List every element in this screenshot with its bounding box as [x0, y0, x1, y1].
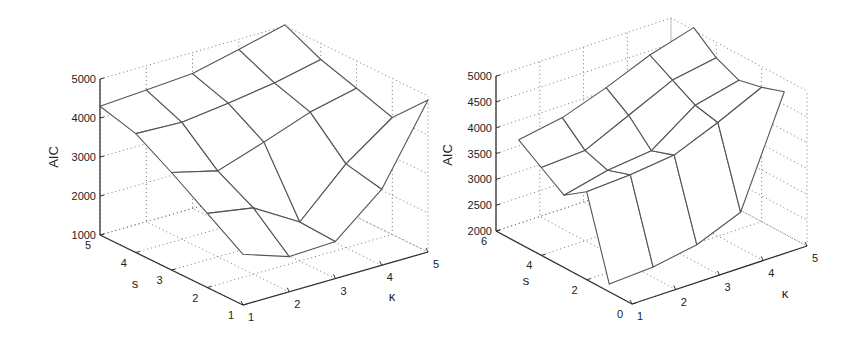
k-tick-label: 4 [387, 271, 393, 283]
z-tick-label: 5000 [468, 70, 492, 82]
z-axis-title: AIC [440, 144, 455, 166]
z-tick-label: 3000 [468, 173, 492, 185]
z-tick-label: 2500 [468, 199, 492, 211]
left-surface-plot: 100020003000400050001234512345AICsκ [0, 0, 440, 341]
z-tick-label: 3500 [468, 148, 492, 160]
k-tick-label: 4 [768, 267, 774, 279]
s-tick-label: 1 [228, 309, 234, 321]
z-tick-label: 3000 [72, 151, 96, 163]
z-tick-label: 4000 [72, 112, 96, 124]
z-tick-label: 1000 [72, 229, 96, 241]
s-tick-label: 2 [192, 292, 198, 304]
z-tick-label: 4500 [468, 96, 492, 108]
k-tick-label: 1 [637, 310, 643, 322]
k-tick-label: 3 [724, 281, 730, 293]
k-axis-title: κ [782, 286, 789, 301]
k-tick-label: 3 [340, 285, 346, 297]
s-tick-label: 3 [156, 274, 162, 286]
s-tick-label: 4 [526, 259, 532, 271]
k-axis-title: κ [389, 289, 396, 304]
right-plot-canvas: 2000250030003500400045005000024612345AIC… [430, 0, 859, 341]
s-tick-label: 6 [481, 235, 487, 247]
k-tick-label: 2 [294, 298, 300, 310]
s-tick-label: 0 [617, 308, 623, 320]
s-axis-title: s [523, 273, 530, 288]
z-tick-label: 5000 [72, 73, 96, 85]
s-tick-label: 4 [121, 257, 127, 269]
surface-mesh [519, 28, 785, 285]
k-tick-label: 5 [812, 252, 818, 264]
z-tick-label: 2000 [468, 225, 492, 237]
surface-mesh [100, 25, 428, 257]
right-surface-plot: 2000250030003500400045005000024612345AIC… [430, 0, 859, 341]
left-plot-canvas: 100020003000400050001234512345AICsκ [0, 0, 440, 341]
z-tick-label: 4000 [468, 122, 492, 134]
k-tick-label: 1 [248, 311, 254, 323]
s-tick-label: 2 [572, 284, 578, 296]
s-axis-title: s [132, 276, 139, 291]
k-tick-label: 2 [681, 296, 687, 308]
z-tick-label: 2000 [72, 190, 96, 202]
s-tick-label: 5 [85, 239, 91, 251]
z-axis-title: AIC [46, 146, 61, 168]
